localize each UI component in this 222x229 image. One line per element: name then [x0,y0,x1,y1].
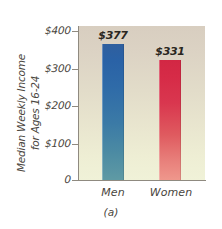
y-tick-200 [72,106,79,107]
y-axis-label-line-1: Median Weekly Income [14,33,28,193]
bar-women [159,60,181,180]
value-label-women: $331 [147,45,193,58]
x-axis-line [78,180,206,181]
y-tick-300 [72,69,79,70]
bar-men-highlight [102,44,103,180]
bar-men [102,44,124,180]
y-tick-400 [72,31,79,32]
x-category-label-women: Women [145,186,197,199]
y-tick-100 [72,144,79,145]
y-axis-label: Median Weekly Income for Ages 16-24 [14,33,42,193]
figure-caption: (a) [0,206,222,218]
value-label-men: $377 [90,29,136,42]
x-category-label-men: Men [90,186,136,199]
bar-women-highlight [159,60,160,180]
y-axis-line [78,26,79,181]
y-tick-0 [72,180,79,181]
y-axis-label-line-2: for Ages 16-24 [28,33,42,193]
bar-men-shadow [123,44,124,180]
bar-chart-figure: $400 $300 $200 $100 0 Median Weekly Inco… [0,0,222,229]
bar-women-shadow [180,60,181,180]
